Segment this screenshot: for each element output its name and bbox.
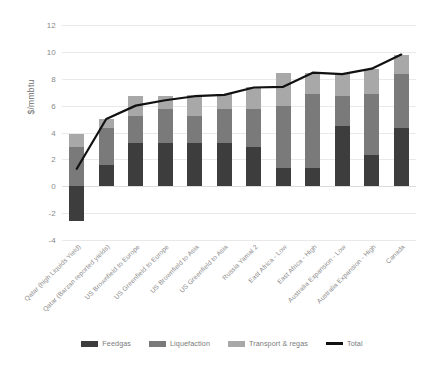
legend-label: Transport & regas xyxy=(249,339,308,348)
y-tick-label: -4 xyxy=(30,236,56,245)
chart-legend: FeedgasLiquefactionTransport & regasTota… xyxy=(0,339,444,348)
y-tick-label: 0 xyxy=(30,182,56,191)
legend-item[interactable]: Transport & regas xyxy=(228,339,308,348)
y-tick-label: 6 xyxy=(30,101,56,110)
legend-swatch-icon xyxy=(228,341,245,347)
legend-item[interactable]: Total xyxy=(326,339,363,348)
y-tick-label: 10 xyxy=(30,47,56,56)
y-tick-label: -2 xyxy=(30,209,56,218)
legend-label: Liquefaction xyxy=(170,339,210,348)
total-line xyxy=(77,55,402,169)
plot-area xyxy=(62,25,416,240)
legend-swatch-icon xyxy=(81,341,98,347)
chart-container: $/mmbtu 121086420-2-4 Qatar (high Liquid… xyxy=(0,0,444,367)
legend-item[interactable]: Feedgas xyxy=(81,339,131,348)
legend-item[interactable]: Liquefaction xyxy=(149,339,210,348)
total-line-series xyxy=(62,25,416,240)
x-axis-category-labels: Qatar (high Liquids Yield)Qatar (Barzan … xyxy=(62,243,416,338)
y-axis-tick-labels: 121086420-2-4 xyxy=(26,25,56,240)
y-tick-label: 12 xyxy=(30,21,56,30)
legend-swatch-icon xyxy=(326,342,343,345)
legend-label: Total xyxy=(347,339,363,348)
y-tick-label: 4 xyxy=(30,128,56,137)
gridline xyxy=(62,240,416,241)
legend-label: Feedgas xyxy=(102,339,131,348)
y-tick-label: 8 xyxy=(30,74,56,83)
y-tick-label: 2 xyxy=(30,155,56,164)
legend-swatch-icon xyxy=(149,341,166,347)
